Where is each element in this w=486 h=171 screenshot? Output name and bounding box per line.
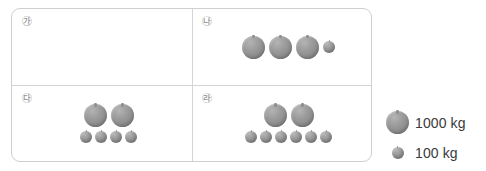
cell-da: ㉰ [12,85,192,161]
weight-comparison-grid: ㉮ ㉯ ㉰ [11,8,372,162]
ball-stack-na [193,9,372,85]
large-ball-icon [111,104,134,127]
large-ball-icon [264,104,287,127]
large-ball-icon [242,36,265,59]
legend: 1000 kg 100 kg [386,111,466,164]
large-ball-icon [296,36,319,59]
legend-label-1000kg: 1000 kg [415,115,466,131]
small-ball-icon [110,131,122,143]
small-ball-icon [245,131,257,143]
ball-row-large [84,104,134,127]
legend-label-100kg: 100 kg [415,145,458,161]
small-ball-icon [320,131,332,143]
small-ball-icon [290,131,302,143]
small-ball-icon [305,131,317,143]
large-ball-icon [84,104,107,127]
ball-row-large [264,104,314,127]
small-ball-icon [323,41,335,53]
legend-item-100kg: 100 kg [386,141,466,164]
small-ball-icon [260,131,272,143]
small-ball-icon [80,131,92,143]
ball-stack-da [12,86,192,161]
small-ball-icon [125,131,137,143]
ball-stack-ra [193,86,372,161]
large-ball-icon [291,104,314,127]
large-ball-icon [386,111,409,134]
cell-ra: ㉱ [192,85,372,161]
small-ball-icon [386,141,409,164]
cell-ga: ㉮ [12,9,192,85]
ball-row-small [80,131,137,143]
cell-na: ㉯ [192,9,372,85]
diagram-canvas: ㉮ ㉯ ㉰ [0,0,486,171]
large-ball-icon [269,36,292,59]
small-ball-icon [275,131,287,143]
ball-stack-ga [12,9,192,85]
ball-row-small [245,131,332,143]
legend-item-1000kg: 1000 kg [386,111,466,134]
small-ball-icon [95,131,107,143]
ball-row [242,36,335,59]
